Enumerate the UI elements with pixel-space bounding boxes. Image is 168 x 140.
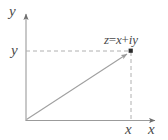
point-label-imaginary-part: y — [132, 32, 138, 47]
y-axis-label: y — [9, 4, 16, 19]
x-tick-label: x — [125, 122, 132, 137]
point-label-equals: = — [109, 32, 116, 47]
x-axis-label: x — [148, 122, 155, 137]
point-label-z: z=x+iy — [104, 33, 138, 46]
y-tick-label: y — [11, 43, 18, 58]
argand-diagram-figure: y y x x z=x+iy — [0, 0, 168, 140]
position-vector-arrow — [27, 54, 128, 120]
diagram-canvas — [0, 0, 168, 140]
point-marker-z — [129, 49, 133, 53]
point-label-plus: + — [122, 32, 129, 47]
